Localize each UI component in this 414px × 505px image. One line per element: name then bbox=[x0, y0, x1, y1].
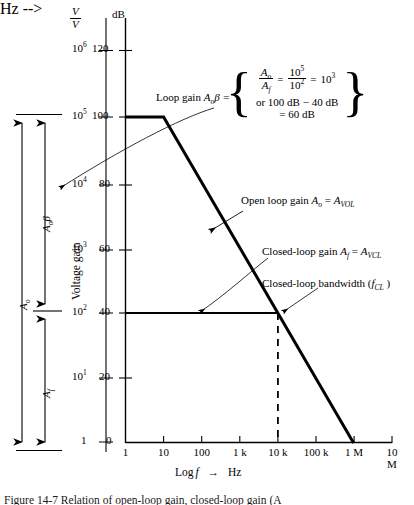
closed-loop-gain-sym1: A bbox=[340, 245, 347, 257]
ratio-axis-header-den: V bbox=[70, 19, 81, 31]
ratio-tick-1: 1 bbox=[81, 435, 87, 447]
loop-gain-frac-num: Ao bbox=[259, 66, 273, 79]
loop-gain-prefix: Loop gain bbox=[156, 91, 204, 103]
ratio-tick-1e5: 105 bbox=[72, 110, 87, 122]
loop-gain-equations: Ao Af = 105 102 = 103 or 100 dB − 40 dB … bbox=[252, 66, 342, 120]
ratio-axis-header: V V bbox=[70, 6, 81, 30]
figure-caption: Figure 14-7 Relation of open-loop gain, … bbox=[4, 494, 282, 505]
db-tick-0: 0 bbox=[106, 435, 112, 447]
db-tick-60: 60 bbox=[99, 243, 110, 255]
x-axis-title-arrow: → bbox=[208, 466, 220, 478]
db-tick-40: 40 bbox=[99, 306, 110, 318]
xtick-10M: 10 M bbox=[381, 446, 403, 470]
db-tick-120: 120 bbox=[92, 43, 109, 55]
open-loop-gain-annotation: Open loop gain Ao = AVOL bbox=[241, 195, 354, 207]
loop-gain-eq-row3: = 60 dB bbox=[256, 108, 338, 120]
xtick-10: 10 bbox=[158, 446, 169, 458]
ratio-tick-1e1: 101 bbox=[72, 371, 87, 383]
closed-loop-gain-sym2-sub: VCL bbox=[368, 251, 382, 260]
closed-loop-gain-leader-line bbox=[200, 258, 268, 312]
loop-gain-eq-row1: Ao Af = 105 102 = 103 bbox=[256, 66, 338, 91]
right-brace-icon: } bbox=[342, 70, 368, 116]
bracket-label-Ao: Ao bbox=[18, 300, 30, 310]
open-loop-sym2: A bbox=[334, 194, 341, 206]
db-tick-80: 80 bbox=[99, 178, 110, 190]
xtick-1: 1 bbox=[123, 446, 129, 458]
closed-loop-bw-text: Closed-loop bandwidth ( bbox=[262, 277, 371, 289]
open-loop-leader-line bbox=[210, 211, 243, 231]
closed-loop-bandwidth-leader-line bbox=[283, 288, 318, 312]
x-axis-title-log: Log bbox=[175, 466, 194, 478]
ratio-tick-1e2: 102 bbox=[72, 306, 87, 318]
loop-gain-brace-group: { Ao Af = 105 102 = 103 or 100 dB − 40 d… bbox=[226, 62, 368, 124]
db-axis-header: dB bbox=[112, 9, 125, 21]
left-brace-icon: { bbox=[226, 70, 252, 116]
db-tick-20: 20 bbox=[99, 371, 110, 383]
x-axis-title: Logf → Hz bbox=[175, 466, 241, 478]
loop-gain-fraction: Ao Af bbox=[259, 66, 273, 91]
loop-gain-annotation-label: Loop gain Aoβ = bbox=[156, 92, 230, 104]
xtick-1M: 1 M bbox=[345, 446, 363, 458]
loop-gain-ratio-den: 102 bbox=[288, 79, 307, 91]
x-axis-title-unit: Hz bbox=[228, 466, 241, 478]
loop-gain-equals-2: = bbox=[310, 73, 316, 85]
figure-page: V V dB 106 105 104 103 102 101 1 120 100… bbox=[0, 0, 414, 505]
open-loop-sym2-sub: VOL bbox=[341, 200, 355, 209]
x-axis-title-f: f bbox=[196, 466, 199, 478]
db-tick-100: 100 bbox=[92, 110, 109, 122]
xtick-1k: 1 k bbox=[233, 446, 247, 458]
open-loop-text: Open loop gain bbox=[241, 194, 312, 206]
xtick-100: 100 bbox=[193, 446, 210, 458]
closed-loop-gain-sym2: A bbox=[361, 245, 368, 257]
loop-gain-ratio-fraction: 105 102 bbox=[288, 66, 307, 91]
open-loop-equals: = bbox=[322, 194, 334, 206]
closed-loop-gain-annotation: Closed-loop gain Af = AVCL bbox=[262, 246, 381, 258]
xtick-10k: 10 k bbox=[268, 446, 287, 458]
loop-gain-result: 103 bbox=[321, 73, 336, 85]
loop-gain-equals-1: = bbox=[277, 73, 283, 85]
bracket-label-Aobeta: Aoβ bbox=[41, 216, 53, 232]
closed-loop-gain-equals: = bbox=[349, 245, 361, 257]
closed-loop-gain-text: Closed-loop gain bbox=[262, 245, 340, 257]
bracket-label-Af: Af bbox=[41, 389, 53, 398]
closed-loop-bw-sym-sub: CL bbox=[374, 283, 383, 292]
closed-loop-bw-close: ) bbox=[384, 277, 390, 289]
ratio-tick-1e4: 104 bbox=[72, 178, 87, 190]
loop-gain-eq-row2: or 100 dB − 40 dB bbox=[256, 96, 338, 108]
y-axis-title: Voltage gain bbox=[70, 242, 82, 300]
ratio-axis-header-num: V bbox=[70, 6, 81, 19]
ratio-tick-1e6: 106 bbox=[72, 43, 87, 55]
closed-loop-bandwidth-annotation: Closed-loop bandwidth (fCL ) bbox=[262, 278, 390, 290]
xtick-100k: 100 k bbox=[304, 446, 329, 458]
